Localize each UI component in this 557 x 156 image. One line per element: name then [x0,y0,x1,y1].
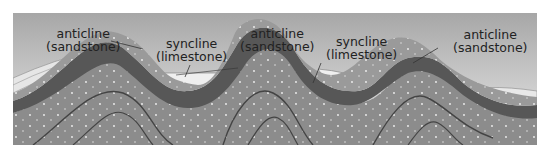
label-line: (limestone) [326,48,397,61]
label-line: (limestone) [156,50,227,63]
label-anticline-3: anticline (sandstone) [453,28,527,54]
label-syncline-1: syncline (limestone) [156,37,227,63]
label-anticline-1: anticline (sandstone) [46,27,120,53]
label-line: (sandstone) [453,41,527,54]
label-line: (sandstone) [46,40,120,53]
label-syncline-2: syncline (limestone) [326,35,397,61]
label-anticline-2: anticline (sandstone) [240,27,314,53]
cross-section-diagram: anticline (sandstone) syncline (limeston… [13,13,537,145]
label-line: (sandstone) [240,40,314,53]
